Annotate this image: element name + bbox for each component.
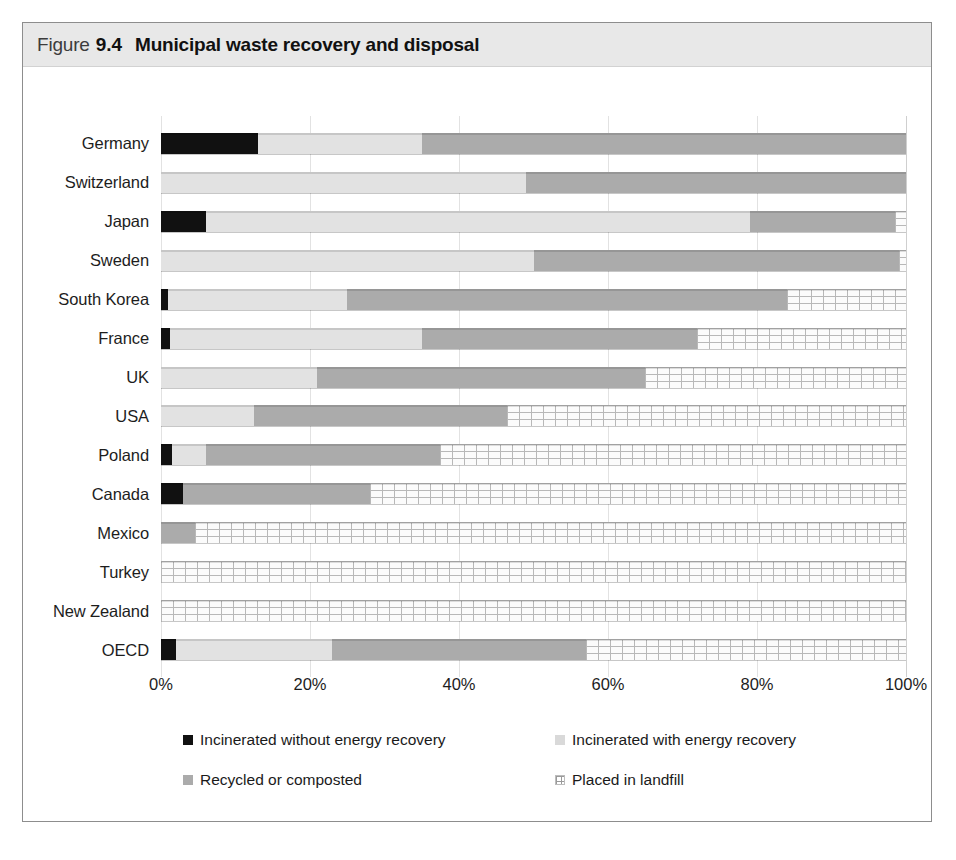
stacked-bar[interactable] [161, 250, 906, 271]
category-label: Switzerland [65, 173, 149, 192]
x-axis-tick-label: 100% [885, 675, 927, 694]
bar-segment-inc-energy[interactable] [170, 328, 422, 349]
chart-legend: Incinerated without energy recoveryIncin… [183, 731, 883, 789]
bar-segment-landfill[interactable] [195, 522, 906, 543]
category-label: OECD [102, 640, 149, 659]
bar-segment-landfill[interactable] [440, 444, 906, 465]
bar-segment-landfill[interactable] [645, 367, 906, 388]
bar-row: OECD [161, 639, 906, 660]
bar-segment-recycled[interactable] [534, 250, 899, 271]
category-label: Turkey [100, 562, 149, 581]
stacked-bar[interactable] [161, 172, 906, 193]
gridline [459, 116, 460, 677]
bar-chart-plot: GermanySwitzerlandJapanSwedenSouth Korea… [161, 124, 906, 669]
bar-segment-inc-energy[interactable] [161, 172, 526, 193]
stacked-bar[interactable] [161, 133, 906, 154]
bar-segment-recycled[interactable] [526, 172, 906, 193]
x-axis-tick-label: 40% [442, 675, 475, 694]
stacked-bar[interactable] [161, 367, 906, 388]
bar-segment-landfill[interactable] [586, 639, 906, 660]
bar-row: Canada [161, 483, 906, 504]
bar-segment-inc-noenergy[interactable] [161, 289, 168, 310]
stacked-bar[interactable] [161, 405, 906, 426]
legend-swatch-inc-noenergy-icon [183, 735, 193, 745]
legend-item-recycled[interactable]: Recycled or composted [183, 771, 555, 789]
bar-segment-landfill[interactable] [697, 328, 906, 349]
legend-swatch-inc-energy-icon [555, 735, 565, 745]
legend-item-inc-energy[interactable]: Incinerated with energy recovery [555, 731, 883, 749]
bar-segment-inc-energy[interactable] [176, 639, 332, 660]
bar-segment-inc-energy[interactable] [161, 405, 254, 426]
stacked-bar[interactable] [161, 522, 906, 543]
category-label: Germany [82, 134, 149, 153]
bar-segment-inc-energy[interactable] [172, 444, 206, 465]
legend-item-inc-noenergy[interactable]: Incinerated without energy recovery [183, 731, 555, 749]
legend-label: Recycled or composted [200, 771, 362, 789]
x-axis-tick-label: 20% [293, 675, 326, 694]
bar-segment-recycled[interactable] [317, 367, 645, 388]
category-label: USA [115, 406, 149, 425]
category-label: France [98, 329, 149, 348]
bar-segment-inc-energy[interactable] [161, 250, 534, 271]
legend-swatch-landfill-icon [555, 775, 565, 785]
bar-row: Turkey [161, 561, 906, 582]
x-axis-tick-label: 0% [149, 675, 173, 694]
bar-segment-recycled[interactable] [332, 639, 585, 660]
bar-segment-recycled[interactable] [254, 405, 507, 426]
bar-row: France [161, 328, 906, 349]
bar-segment-inc-noenergy[interactable] [161, 328, 170, 349]
category-label: New Zealand [53, 601, 149, 620]
bar-row: South Korea [161, 289, 906, 310]
bar-row: USA [161, 405, 906, 426]
bar-segment-inc-energy[interactable] [258, 133, 422, 154]
bar-segment-inc-noenergy[interactable] [161, 211, 206, 232]
bar-segment-inc-noenergy[interactable] [161, 483, 183, 504]
bar-segment-landfill[interactable] [787, 289, 906, 310]
category-label: Japan [105, 212, 149, 231]
bar-segment-inc-energy[interactable] [168, 289, 347, 310]
bar-segment-recycled[interactable] [347, 289, 787, 310]
bar-row: UK [161, 367, 906, 388]
category-label: South Korea [58, 290, 149, 309]
bar-row: Sweden [161, 250, 906, 271]
bar-segment-inc-noenergy[interactable] [161, 133, 258, 154]
bar-segment-landfill[interactable] [899, 250, 906, 271]
bar-segment-recycled[interactable] [206, 444, 441, 465]
bar-segment-recycled[interactable] [161, 522, 195, 543]
stacked-bar[interactable] [161, 289, 906, 310]
bar-segment-inc-energy[interactable] [206, 211, 750, 232]
stacked-bar[interactable] [161, 328, 906, 349]
bar-segment-recycled[interactable] [422, 133, 906, 154]
bar-segment-landfill[interactable] [161, 561, 906, 582]
x-axis-tick-label: 60% [591, 675, 624, 694]
stacked-bar[interactable] [161, 561, 906, 582]
bar-segment-landfill[interactable] [370, 483, 906, 504]
bar-row: Germany [161, 133, 906, 154]
bar-segment-landfill[interactable] [895, 211, 906, 232]
legend-label: Incinerated without energy recovery [200, 731, 446, 749]
bar-row: New Zealand [161, 600, 906, 621]
bar-segment-landfill[interactable] [161, 600, 906, 621]
legend-swatch-recycled-icon [183, 775, 193, 785]
stacked-bar[interactable] [161, 600, 906, 621]
bar-segment-inc-energy[interactable] [161, 367, 317, 388]
legend-item-landfill[interactable]: Placed in landfill [555, 771, 883, 789]
bar-segment-landfill[interactable] [507, 405, 906, 426]
figure-number: 9.4 [96, 34, 122, 56]
bar-segment-inc-noenergy[interactable] [161, 639, 176, 660]
figure-title: Municipal waste recovery and disposal [135, 34, 479, 56]
chart-area: GermanySwitzerlandJapanSwedenSouth Korea… [23, 67, 931, 821]
category-label: UK [126, 368, 149, 387]
bar-segment-recycled[interactable] [422, 328, 698, 349]
legend-label: Placed in landfill [572, 771, 684, 789]
x-axis-tick-label: 80% [740, 675, 773, 694]
bar-segment-recycled[interactable] [750, 211, 895, 232]
bar-segment-inc-noenergy[interactable] [161, 444, 172, 465]
gridline [757, 116, 758, 677]
stacked-bar[interactable] [161, 211, 906, 232]
stacked-bar[interactable] [161, 444, 906, 465]
stacked-bar[interactable] [161, 639, 906, 660]
stacked-bar[interactable] [161, 483, 906, 504]
bar-segment-recycled[interactable] [183, 483, 369, 504]
gridline [906, 116, 907, 677]
